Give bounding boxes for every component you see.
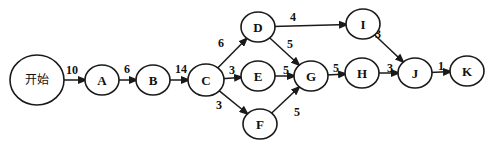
- node-J: J: [398, 58, 432, 88]
- node-label-B: B: [149, 73, 158, 88]
- node-H: H: [345, 58, 379, 88]
- node-label-F: F: [256, 117, 264, 132]
- edge-weight-H-J: 3: [387, 61, 393, 75]
- node-B: B: [136, 65, 170, 95]
- node-label-start: 开始: [25, 73, 49, 87]
- node-label-C: C: [201, 73, 210, 88]
- node-I: I: [346, 9, 380, 39]
- edge-weight-F-G: 5: [294, 105, 300, 119]
- edge-weight-C-F: 3: [216, 98, 222, 112]
- node-label-G: G: [306, 69, 316, 84]
- node-A: A: [85, 65, 119, 95]
- node-C: C: [188, 64, 224, 96]
- node-label-I: I: [360, 17, 365, 32]
- edge-weight-G-H: 5: [333, 61, 339, 75]
- edge-D-I: [273, 24, 348, 26]
- edge-C-E: [222, 77, 243, 79]
- node-label-E: E: [254, 69, 263, 84]
- edge-weight-C-D: 6: [218, 36, 224, 50]
- nodes-layer: 开始ABCDEFGIHJK: [10, 9, 484, 139]
- edge-weight-A-B: 6: [124, 62, 130, 76]
- network-diagram: 1061463345555331 开始ABCDEFGIHJK: [0, 0, 490, 146]
- edge-weight-B-C: 14: [175, 62, 187, 76]
- node-label-J: J: [412, 66, 419, 81]
- edge-weight-D-G: 5: [287, 37, 293, 51]
- node-F: F: [243, 109, 277, 139]
- node-E: E: [241, 61, 275, 91]
- node-D: D: [241, 12, 275, 42]
- node-K: K: [450, 56, 484, 86]
- node-label-H: H: [357, 66, 367, 81]
- node-label-A: A: [97, 73, 107, 88]
- edge-weight-C-E: 3: [229, 63, 235, 77]
- node-label-D: D: [253, 20, 262, 35]
- edge-C-F: [218, 90, 248, 114]
- node-start: 开始: [10, 55, 64, 105]
- edge-weight-start-A: 10: [66, 63, 78, 77]
- edge-D-G: [269, 37, 300, 66]
- edge-weight-D-I: 4: [290, 10, 296, 24]
- node-label-K: K: [462, 64, 473, 79]
- edge-weight-E-G: 5: [283, 63, 289, 77]
- node-G: G: [294, 61, 328, 91]
- edge-weight-J-K: 1: [438, 59, 444, 73]
